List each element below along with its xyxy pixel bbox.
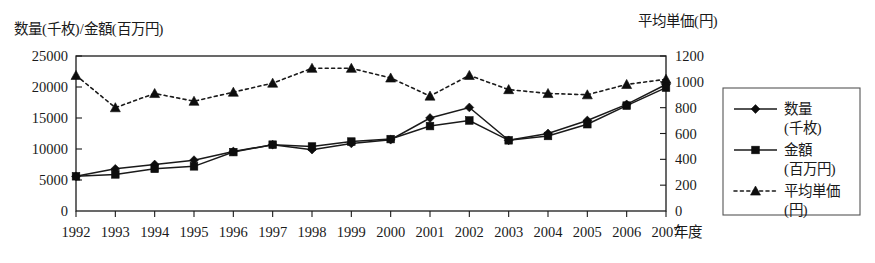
left-tick-label: 20000 [32, 79, 68, 95]
x-tick-label: 2004 [534, 224, 564, 240]
x-tick-label: 1997 [258, 224, 287, 240]
right-tick-label: 400 [675, 151, 697, 167]
x-tick-label: 2001 [416, 224, 445, 240]
left-tick-label: 0 [61, 203, 68, 219]
left-axis-title: 数量(千枚)/金額(百万円) [14, 21, 164, 38]
data-point-square [505, 137, 513, 145]
legend-label-line2: (千枚) [784, 120, 822, 137]
series-3-triangle [71, 63, 671, 111]
x-tick-label: 2002 [455, 224, 484, 240]
legend-label-line2: (円) [784, 202, 808, 219]
x-tick-label: 1994 [140, 224, 170, 240]
data-point-square [151, 165, 159, 173]
legend-item-1[interactable]: 数量(千枚) [734, 101, 822, 137]
right-tick-label: 600 [675, 126, 697, 142]
legend-label-line1: 数量 [784, 101, 812, 117]
legend-marker-diamond [751, 105, 760, 114]
data-point-square [387, 135, 395, 143]
x-tick-label: 1993 [101, 224, 130, 240]
right-axis-title: 平均単価(円) [638, 13, 718, 30]
legend-marker-square [752, 146, 760, 154]
x-tick-label: 1996 [219, 224, 248, 240]
data-point-triangle [661, 74, 671, 83]
data-point-triangle [386, 73, 396, 82]
data-point-square [426, 122, 434, 130]
x-tick-label: 2003 [494, 224, 523, 240]
legend-label-line1: 金額 [784, 142, 812, 158]
data-point-square [348, 138, 356, 146]
left-tick-label: 15000 [32, 110, 68, 126]
data-point-triangle [228, 87, 238, 96]
data-point-triangle [150, 88, 160, 97]
right-tick-label: 200 [675, 177, 697, 193]
dual-axis-line-chart: 数量(千枚)/金額(百万円)平均単価(円)0500010000150002000… [0, 0, 875, 263]
right-tick-label: 800 [675, 100, 697, 116]
legend-label-line1: 平均単価 [784, 183, 840, 199]
x-axis-name: 年度 [674, 224, 702, 240]
series-line-triangle [76, 68, 666, 107]
legend-item-3[interactable]: 平均単価(円) [734, 183, 840, 219]
data-point-triangle [464, 70, 474, 79]
data-point-square [544, 132, 552, 140]
chart-container: 数量(千枚)/金額(百万円)平均単価(円)0500010000150002000… [0, 0, 875, 263]
legend-label-line2: (百万円) [784, 161, 836, 178]
data-point-diamond [426, 114, 435, 123]
x-tick-label: 1992 [62, 224, 91, 240]
x-tick-label: 2005 [573, 224, 602, 240]
left-tick-label: 10000 [32, 141, 68, 157]
data-point-square [112, 171, 120, 179]
data-point-triangle [71, 70, 81, 79]
series-2-square [72, 84, 670, 180]
data-point-square [230, 148, 238, 156]
x-tick-label: 1999 [337, 224, 366, 240]
left-tick-label: 25000 [32, 48, 68, 64]
data-point-square [623, 102, 631, 110]
x-tick-label: 2006 [612, 224, 641, 240]
plot-frame [76, 56, 666, 211]
data-point-square [308, 143, 316, 151]
left-tick-label: 5000 [39, 172, 68, 188]
x-tick-label: 1998 [298, 224, 327, 240]
legend-item-2[interactable]: 金額(百万円) [734, 142, 836, 178]
data-point-triangle [425, 91, 435, 100]
right-tick-label: 0 [675, 203, 682, 219]
right-tick-label: 1200 [675, 48, 704, 64]
data-point-square [72, 172, 80, 180]
series-line-diamond [76, 85, 666, 177]
data-point-triangle [268, 78, 278, 87]
legend: 数量(千枚)金額(百万円)平均単価(円) [723, 88, 860, 219]
x-tick-label: 1995 [180, 224, 209, 240]
data-point-square [269, 141, 277, 149]
data-point-square [662, 84, 670, 92]
data-point-square [584, 120, 592, 128]
x-tick-label: 2000 [376, 224, 405, 240]
right-tick-label: 1000 [675, 74, 704, 90]
data-point-square [190, 163, 198, 171]
data-point-square [466, 117, 474, 125]
